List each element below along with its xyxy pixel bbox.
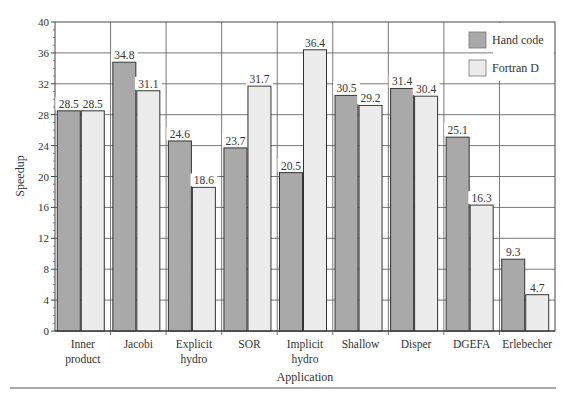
y-tick-label: 12	[38, 232, 49, 244]
y-tick-label: 16	[38, 201, 50, 213]
x-category-label: DGEFA	[453, 338, 491, 350]
legend-swatch	[469, 32, 486, 48]
y-tick-label: 36	[38, 47, 50, 59]
bar-fortran-d	[470, 205, 493, 331]
value-label: 30.4	[416, 83, 436, 95]
bar-hand-code	[168, 141, 191, 331]
value-label: 9.3	[506, 246, 521, 258]
bar-hand-code	[446, 137, 469, 331]
x-category-label: Inner	[71, 338, 95, 350]
value-label: 31.1	[138, 78, 158, 90]
y-tick-label: 24	[38, 140, 50, 152]
x-axis-title: Application	[277, 370, 334, 384]
x-category-label: Explicit	[176, 338, 213, 351]
bar-fortran-d	[359, 105, 382, 331]
legend-label: Hand code	[492, 33, 544, 47]
value-label: 18.6	[194, 174, 214, 186]
value-label: 30.5	[336, 82, 356, 94]
x-category-label: product	[65, 353, 101, 366]
legend-swatch	[469, 60, 486, 76]
x-category-label: Shallow	[342, 338, 380, 350]
legend-label: Fortran D	[492, 61, 539, 75]
y-tick-label: 8	[44, 263, 50, 275]
value-label: 25.1	[448, 124, 468, 136]
y-axis-title: Speedup	[13, 155, 27, 196]
bar-fortran-d	[526, 295, 549, 331]
y-tick-label: 40	[38, 16, 50, 28]
legend: Hand codeFortran D	[465, 23, 554, 81]
bars: 28.528.534.831.124.618.623.731.720.536.4…	[55, 36, 548, 331]
bar-hand-code	[113, 62, 136, 331]
value-label: 29.2	[360, 92, 380, 104]
y-tick-label: 32	[38, 78, 49, 90]
bar-hand-code	[280, 173, 303, 331]
bar-hand-code	[502, 259, 525, 331]
value-label: 28.5	[83, 98, 103, 110]
bar-fortran-d	[248, 86, 271, 331]
value-label: 16.3	[472, 192, 492, 204]
x-category-label: hydro	[292, 353, 319, 366]
y-tick-label: 28	[38, 109, 50, 121]
bar-fortran-d	[415, 96, 438, 331]
bar-fortran-d	[304, 50, 327, 331]
value-label: 36.4	[305, 37, 325, 49]
bar-hand-code	[57, 111, 80, 331]
y-tick-label: 4	[44, 294, 50, 306]
value-label: 31.7	[249, 73, 269, 85]
value-label: 24.6	[170, 128, 190, 140]
value-label: 31.4	[392, 75, 412, 87]
x-category-label: Erlebecher	[502, 338, 552, 350]
value-label: 34.8	[114, 49, 134, 61]
bar-fortran-d	[192, 187, 215, 331]
value-label: 28.5	[59, 98, 79, 110]
value-label: 20.5	[281, 160, 301, 172]
x-category-label: Jacobi	[124, 338, 153, 350]
bar-hand-code	[224, 148, 247, 331]
x-category-label: Implicit	[287, 338, 324, 351]
value-label: 23.7	[225, 135, 245, 147]
x-category-label: SOR	[238, 338, 261, 350]
bar-hand-code	[391, 88, 414, 331]
y-tick-label: 20	[38, 171, 50, 183]
bar-fortran-d	[137, 91, 160, 331]
bar-hand-code	[335, 95, 358, 331]
x-category-label: Disper	[401, 338, 432, 351]
bar-fortran-d	[81, 111, 104, 331]
x-category-label: hydro	[180, 353, 207, 366]
y-tick-label: 0	[44, 325, 50, 337]
value-label: 4.7	[530, 282, 545, 294]
speedup-bar-chart: 28.528.534.831.124.618.623.731.720.536.4…	[0, 0, 566, 403]
